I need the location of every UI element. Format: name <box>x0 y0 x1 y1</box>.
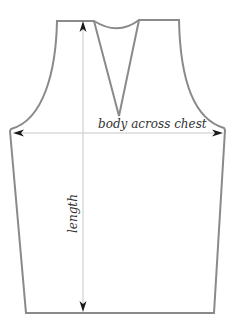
length-measurement-label: length <box>66 194 80 233</box>
pattern-diagram: body across chest length <box>0 0 232 320</box>
chest-measurement-label: body across chest <box>98 117 207 131</box>
garment-outline <box>10 20 225 313</box>
v-neck-line <box>94 20 139 116</box>
